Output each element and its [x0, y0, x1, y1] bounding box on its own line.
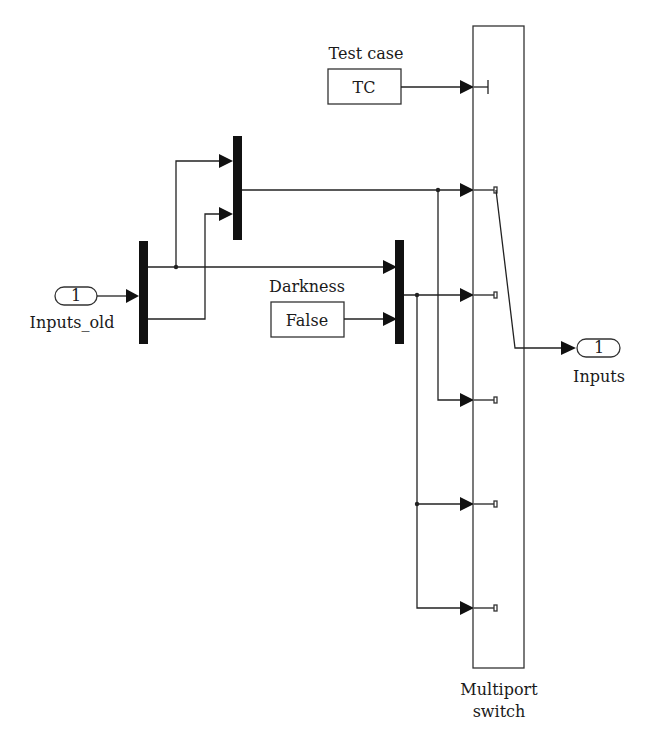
darkness-label: Darkness: [269, 277, 345, 296]
test-case-value: TC: [353, 78, 376, 97]
switch-label-line1: Multiport: [460, 680, 538, 699]
outport-label: Inputs: [573, 367, 625, 386]
switch-port-3: [494, 397, 497, 403]
mux1-block[interactable]: [139, 241, 148, 344]
wire-mux3-branch: [417, 295, 462, 608]
switch-port-5: [494, 605, 497, 611]
arrow-icon: [219, 207, 233, 221]
arrow-icon: [460, 80, 474, 94]
arrow-icon: [219, 154, 233, 168]
junction-dot: [415, 502, 419, 506]
arrow-icon: [460, 183, 474, 197]
inport-number: 1: [71, 286, 81, 305]
arrow-icon: [460, 497, 474, 511]
switch-port-4: [494, 501, 497, 507]
outport-number: 1: [594, 338, 604, 357]
inport-label: Inputs_old: [30, 313, 115, 332]
arrow-icon: [460, 288, 474, 302]
arrow-icon: [561, 341, 576, 355]
mux2-block[interactable]: [233, 136, 242, 240]
arrow-icon: [126, 289, 139, 303]
switch-label-line2: switch: [473, 702, 526, 721]
diagram-canvas: Multiport switch Test case TC 1 Inputs_o…: [0, 0, 654, 746]
switch-port-2: [494, 292, 497, 298]
arrow-icon: [460, 393, 474, 407]
darkness-value: False: [286, 311, 328, 330]
arrow-icon: [383, 312, 397, 326]
arrow-icon: [460, 601, 474, 615]
arrow-icon: [383, 260, 397, 274]
mux3-block[interactable]: [395, 240, 404, 344]
multiport-switch-block[interactable]: [473, 26, 524, 668]
test-case-label: Test case: [329, 44, 404, 63]
